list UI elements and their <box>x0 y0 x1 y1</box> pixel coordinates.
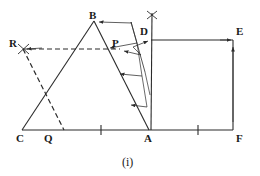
vertex-label-C: C <box>16 133 24 144</box>
vertex-label-E: E <box>236 26 243 37</box>
vertex-label-P: P <box>112 38 119 49</box>
vertex-label-D: D <box>140 26 148 37</box>
vertex-label-R: R <box>9 38 17 49</box>
projection-arrows <box>27 22 233 122</box>
vertex-label-F: F <box>236 133 243 144</box>
geometry-figure: R B P D E C Q A F (i) <box>0 0 260 176</box>
shear-line-lower <box>145 72 150 95</box>
arrow-to-D <box>133 41 148 47</box>
arrow-ba-mid <box>120 74 142 76</box>
dashed-segments <box>23 49 120 130</box>
vertex-label-A: A <box>144 133 152 144</box>
cross-marks <box>18 11 157 54</box>
dashed-R-to-Q <box>23 49 64 130</box>
triangle-side-B-A <box>94 21 149 130</box>
arrow-to-B <box>99 22 132 23</box>
connector-B-rail <box>131 22 137 43</box>
figure-caption: (i) <box>122 156 133 168</box>
arrow-ba-lower <box>131 105 147 107</box>
connector-mid-rail <box>142 76 147 107</box>
figure-canvas <box>0 0 260 176</box>
triangle-side-C-B <box>22 21 94 130</box>
vertical-A-to-top <box>151 13 152 130</box>
vertex-label-B: B <box>89 10 96 21</box>
vertex-label-Q: Q <box>44 133 53 144</box>
solid-segments <box>22 13 233 130</box>
